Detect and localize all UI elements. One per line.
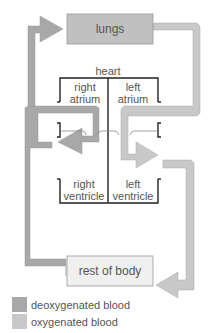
left-atrium-label-2: atrium <box>110 93 156 105</box>
right-atrium-label-2: atrium <box>63 93 107 105</box>
legend-label-oxygenated: oxygenated blood <box>31 316 118 328</box>
deoxygenated-swatch <box>12 297 27 312</box>
legend-oxygenated: oxygenated blood <box>12 314 118 329</box>
oxygenated-swatch <box>12 314 27 329</box>
deoxygenated-flow <box>25 16 99 276</box>
right-ventricle-label-1: right <box>61 178 107 190</box>
body-label: rest of body <box>67 265 153 277</box>
left-ventricle-label-1: left <box>110 178 156 190</box>
legend-label-deoxygenated: deoxygenated blood <box>31 299 130 311</box>
right-atrium-label-1: right <box>63 81 107 93</box>
right-ventricle-label-2: ventricle <box>61 190 107 202</box>
lungs-label: lungs <box>67 23 153 35</box>
left-ventricle-label-2: ventricle <box>110 190 156 202</box>
circulation-diagram <box>0 0 209 333</box>
heart-title: heart <box>88 65 128 77</box>
left-atrium-label-1: left <box>110 81 156 93</box>
legend-deoxygenated: deoxygenated blood <box>12 297 130 312</box>
